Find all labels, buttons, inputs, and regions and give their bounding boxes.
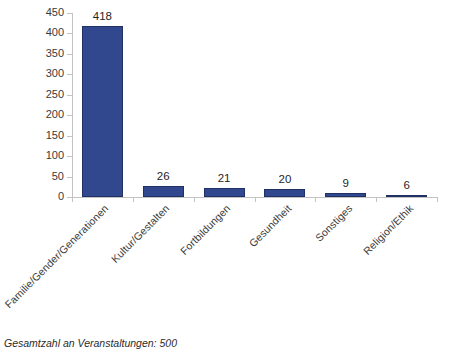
bar <box>204 188 245 197</box>
x-axis-tick <box>315 198 316 202</box>
bar-value-label: 26 <box>133 170 193 182</box>
y-axis-tick-label: 350 <box>24 48 64 59</box>
y-axis-tick-label-text: 50 <box>28 171 64 182</box>
y-axis-tick-label: 150 <box>24 130 64 141</box>
bar-value-label: 9 <box>316 177 376 189</box>
y-axis-tick-label: 200 <box>24 109 64 120</box>
bar <box>264 189 305 197</box>
y-axis-tick-label-text: 0 <box>28 191 64 202</box>
x-axis-tick <box>437 198 438 202</box>
y-axis-tick-label-text: 100 <box>28 150 64 161</box>
y-axis-tick-label-text: 300 <box>28 68 64 79</box>
y-axis-tick-label: 50 <box>24 171 64 182</box>
x-axis-tick <box>376 198 377 202</box>
y-axis-tick-label: 300 <box>24 68 64 79</box>
x-axis-tick <box>255 198 256 202</box>
bar <box>143 186 184 197</box>
total-events-caption: Gesamtzahl an Veranstaltungen: 500 <box>4 337 177 350</box>
y-axis-tick-label-text: 150 <box>28 130 64 141</box>
x-axis-tick <box>72 198 73 202</box>
bar <box>325 193 366 197</box>
y-axis-tick-label-text: 200 <box>28 109 64 120</box>
x-axis-tick <box>133 198 134 202</box>
y-axis-tick-label-text: 450 <box>28 7 64 18</box>
y-axis-tick-label-text: 350 <box>28 48 64 59</box>
x-axis-tick <box>194 198 195 202</box>
bar-value-label: 418 <box>72 10 132 22</box>
y-axis-tick-label: 450 <box>24 7 64 18</box>
y-axis-tick-label: 250 <box>24 89 64 100</box>
y-axis-tick-label: 0 <box>24 191 64 202</box>
bar-value-label: 6 <box>377 179 437 191</box>
bar-chart-figure: 450400350300250200150100500 41826212096 … <box>0 0 449 356</box>
y-axis-tick-label: 100 <box>24 150 64 161</box>
bar-value-label: 21 <box>194 172 254 184</box>
y-axis-tick-label-text: 400 <box>28 27 64 38</box>
bar-value-label: 20 <box>255 173 315 185</box>
bar <box>82 26 123 197</box>
y-axis-tick-label-text: 250 <box>28 89 64 100</box>
y-axis-tick-label: 400 <box>24 27 64 38</box>
bar <box>386 195 427 197</box>
plot-area: 41826212096 <box>72 13 437 197</box>
